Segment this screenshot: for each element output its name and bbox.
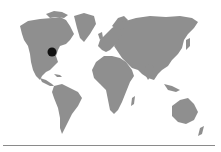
- arctic-islands: [46, 11, 68, 18]
- location-marker: [48, 48, 57, 57]
- madagascar: [131, 96, 135, 106]
- central-america: [40, 78, 54, 86]
- southeast-asia-islands: [164, 84, 180, 92]
- caribbean: [54, 74, 62, 77]
- north-america: [20, 17, 74, 80]
- south-america: [52, 84, 82, 134]
- japan: [186, 38, 190, 50]
- divider-line: [3, 145, 215, 146]
- land-masses: [20, 11, 204, 136]
- new-zealand: [198, 126, 204, 136]
- australia: [172, 98, 198, 124]
- greenland: [74, 13, 96, 42]
- world-map: [0, 0, 221, 152]
- africa: [92, 56, 134, 114]
